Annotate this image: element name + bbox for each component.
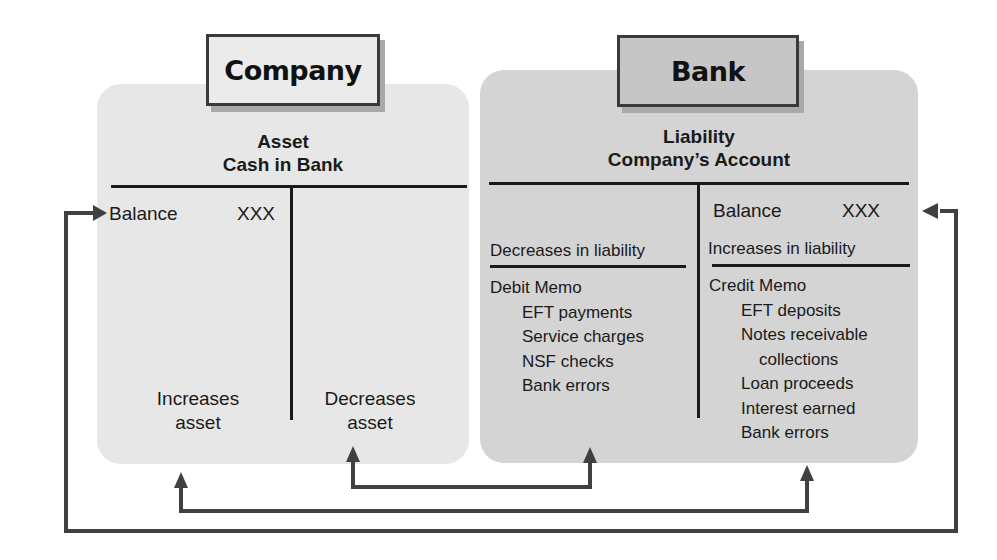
debit-to-decreases-arrow — [353, 460, 590, 487]
arrowhead-up-icon — [346, 446, 360, 462]
arrowhead-up-icon — [583, 447, 597, 463]
connector-arrows — [0, 0, 997, 560]
balance-link-arrow — [66, 211, 956, 531]
arrowhead-up-icon — [800, 465, 814, 481]
credit-to-increases-arrow — [181, 478, 807, 511]
arrowhead-up-icon — [174, 472, 188, 488]
arrowhead-right-icon — [93, 205, 107, 221]
arrowhead-left-icon — [922, 203, 938, 219]
